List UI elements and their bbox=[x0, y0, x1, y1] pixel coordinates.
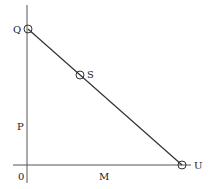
y-axis-label: P bbox=[17, 121, 24, 132]
point-u-label: U bbox=[194, 160, 202, 171]
line-q-u bbox=[28, 29, 182, 165]
x-axis-label: M bbox=[99, 171, 109, 182]
origin-label: 0 bbox=[18, 171, 24, 182]
point-s-label: S bbox=[87, 69, 94, 80]
diagram-canvas: Q S U P M 0 bbox=[0, 0, 212, 189]
point-q-label: Q bbox=[13, 24, 21, 35]
